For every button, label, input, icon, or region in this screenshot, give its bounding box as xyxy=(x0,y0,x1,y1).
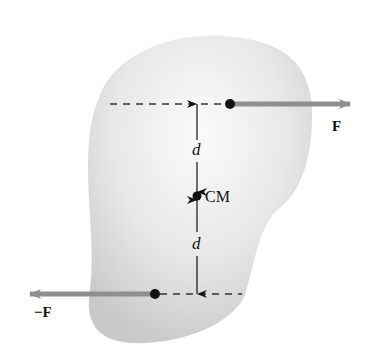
rigid-body xyxy=(88,36,312,344)
center-of-mass-dot xyxy=(193,192,202,201)
force-couple-diagram xyxy=(0,0,366,357)
label-center-of-mass: CM xyxy=(205,189,230,205)
label-distance-bottom: d xyxy=(192,235,201,252)
force-point-bottom xyxy=(150,289,160,299)
label-force-f: F xyxy=(332,119,341,134)
force-point-top xyxy=(225,99,235,109)
label-distance-top: d xyxy=(192,141,201,158)
label-force-neg-f: −F xyxy=(34,305,52,320)
